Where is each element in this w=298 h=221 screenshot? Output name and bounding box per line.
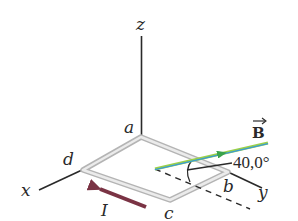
loop-in-field-diagram: z x y a d c b 40,0° B I xyxy=(0,0,298,221)
y-axis-label: y xyxy=(257,182,268,202)
corner-c-label: c xyxy=(164,203,174,221)
x-axis-label: x xyxy=(21,180,31,200)
field-label: B xyxy=(252,118,266,142)
corner-b-label: b xyxy=(223,176,234,196)
field-label-text: B xyxy=(252,124,265,142)
corner-d-label: d xyxy=(63,149,74,169)
x-axis xyxy=(39,170,82,190)
z-axis-label: z xyxy=(135,14,146,34)
current-label: I xyxy=(100,200,108,220)
angle-label: 40,0° xyxy=(233,153,270,172)
angle-arc xyxy=(187,160,192,182)
corner-a-label: a xyxy=(124,117,134,137)
